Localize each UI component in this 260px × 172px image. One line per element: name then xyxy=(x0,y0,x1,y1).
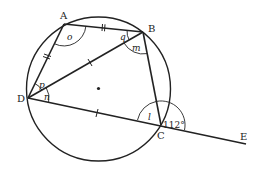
geometry-diagram: A B C D E o q m p n l 112° xyxy=(0,0,260,172)
label-angle-l: l xyxy=(148,112,151,122)
label-angle-o: o xyxy=(67,32,73,42)
angle-arc-q xyxy=(127,30,129,40)
label-angle-q: q xyxy=(120,32,126,42)
label-point-C: C xyxy=(157,130,165,141)
side-BC xyxy=(143,32,161,125)
label-point-D: D xyxy=(17,93,25,104)
label-angle-m: m xyxy=(132,43,141,53)
line-DE xyxy=(28,98,246,144)
label-point-B: B xyxy=(148,23,155,34)
label-angle-112: 112° xyxy=(163,120,185,130)
label-point-E: E xyxy=(240,131,247,142)
angle-arc-l xyxy=(138,101,157,120)
label-angle-p: p xyxy=(39,80,45,90)
label-angle-n: n xyxy=(44,92,50,102)
center-dot xyxy=(97,87,100,90)
label-point-A: A xyxy=(59,10,68,21)
